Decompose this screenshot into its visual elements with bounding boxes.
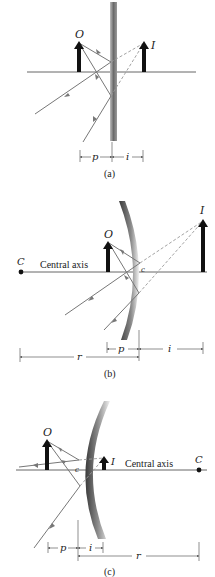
panel-a-plane-mirror: O I p i (a): [27, 2, 196, 180]
center-of-curvature-dot: [19, 270, 24, 275]
center-label: C: [195, 454, 203, 465]
object-label: O: [104, 228, 113, 241]
object-arrow: [103, 241, 113, 272]
vertex-label: c: [75, 466, 79, 474]
panel-c-convex-mirror: C Central axis c O I: [16, 401, 207, 577]
dimension-label-i: i: [89, 542, 92, 553]
object-label: O: [43, 426, 52, 439]
light-rays: [35, 43, 111, 142]
dimension-p-i-r: [20, 330, 203, 362]
dimension-label-p: p: [118, 343, 125, 354]
plane-mirror: [110, 2, 117, 141]
panel-b-concave-mirror: C Central axis c O I: [17, 201, 208, 380]
light-rays: [19, 441, 80, 548]
central-axis-label: Central axis: [125, 458, 173, 469]
dimension-label-p: p: [60, 542, 67, 553]
image-arrow: [139, 41, 149, 72]
center-label: C: [17, 256, 25, 267]
dimension-p-i: [80, 142, 143, 162]
object-label: O: [75, 28, 84, 41]
image-label: I: [110, 456, 116, 467]
panel-caption-a: (a): [104, 168, 115, 180]
dimension-label-p: p: [92, 151, 99, 162]
dimension-label-i: i: [168, 343, 171, 354]
central-axis-label: Central axis: [40, 259, 88, 270]
mirror-diagram-figure: O I p i (a) C Central axis: [0, 0, 215, 577]
panel-caption-b: (b): [104, 368, 116, 380]
image-label: I: [150, 39, 156, 52]
image-arrow: [198, 219, 208, 272]
center-of-curvature-dot: [197, 468, 202, 473]
dimension-label-r: r: [136, 550, 142, 561]
panel-caption-c: (c): [104, 566, 115, 577]
image-label: I: [199, 204, 205, 217]
virtual-rays: [139, 221, 203, 293]
dimension-p-i-r: [48, 520, 199, 561]
vertex-label: c: [141, 266, 145, 274]
dimension-label-i: i: [126, 151, 129, 162]
dimension-label-r: r: [77, 351, 83, 362]
